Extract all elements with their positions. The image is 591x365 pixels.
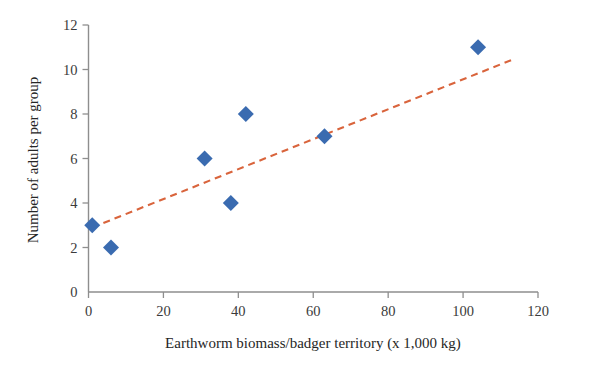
scatter-plot-svg: 024681012 020406080100120 Earthworm biom…: [0, 0, 591, 365]
y-tick-label: 12: [63, 17, 78, 33]
x-tick-label: 100: [452, 303, 474, 319]
x-tick-label: 80: [381, 303, 396, 319]
x-axis-title: Earthworm biomass/badger territory (x 1,…: [165, 335, 461, 352]
x-tick-label: 60: [306, 303, 321, 319]
x-tick-label: 20: [156, 303, 171, 319]
x-tick-label: 120: [527, 303, 549, 319]
y-tick-label: 0: [70, 284, 77, 300]
x-tick-label: 0: [85, 303, 92, 319]
y-tick-label: 8: [70, 106, 77, 122]
y-tick-label: 2: [70, 240, 77, 256]
y-tick-label: 10: [63, 62, 78, 78]
chart-figure: 024681012 020406080100120 Earthworm biom…: [0, 0, 591, 365]
y-tick-label: 4: [70, 195, 78, 211]
y-axis-title: Number of adults per group: [25, 77, 41, 244]
x-tick-label: 40: [231, 303, 246, 319]
y-tick-label: 6: [70, 151, 77, 167]
